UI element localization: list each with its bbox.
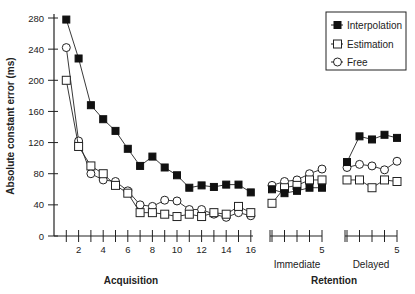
filled-square-marker <box>269 186 276 193</box>
filled-square-icon <box>334 22 341 29</box>
filled-square-marker <box>112 127 119 134</box>
y-tick-label: 160 <box>28 106 44 117</box>
x-tick-label: 10 <box>172 244 183 255</box>
filled-square-marker <box>75 55 82 62</box>
open-circle-marker <box>381 166 389 174</box>
filled-square-marker <box>319 184 326 191</box>
filled-square-marker <box>381 131 388 138</box>
open-circle-marker <box>393 157 401 165</box>
x-axis-label-immediate: Immediate <box>274 259 321 270</box>
filled-square-marker <box>186 184 193 191</box>
legend-interpolation: Interpolation <box>347 20 402 31</box>
open-square-marker <box>87 162 95 170</box>
x-axis-label-delayed: Delayed <box>353 259 390 270</box>
open-square-marker <box>318 176 326 184</box>
legend-free: Free <box>347 57 368 68</box>
open-square-marker <box>368 184 376 192</box>
filled-square-marker <box>369 136 376 143</box>
series-estimation <box>62 76 255 220</box>
legend: Interpolation Estimation Free <box>326 12 406 70</box>
filled-square-marker <box>137 162 144 169</box>
x-tick-label: 2 <box>76 244 81 255</box>
y-axis-label: Absolute constant error (ms) <box>5 57 16 194</box>
open-square-marker <box>62 76 70 84</box>
filled-square-marker <box>174 172 181 179</box>
filled-square-marker <box>294 187 301 194</box>
filled-square-marker <box>247 189 254 196</box>
series-estimation <box>343 176 401 192</box>
filled-square-marker <box>63 16 70 23</box>
open-square-marker <box>99 170 107 178</box>
open-square-marker <box>306 176 314 184</box>
y-tick-label: 240 <box>28 44 44 55</box>
series-interpolation <box>344 131 401 165</box>
open-circle-marker <box>62 44 70 52</box>
y-tick-label: 0 <box>39 231 44 242</box>
filled-square-marker <box>344 159 351 166</box>
open-square-marker <box>148 209 156 217</box>
series-free <box>62 44 255 222</box>
filled-square-marker <box>149 153 156 160</box>
open-square-marker <box>356 176 364 184</box>
open-square-marker <box>381 176 389 184</box>
series-free <box>343 157 401 174</box>
open-square-marker <box>198 213 206 221</box>
x-tick-label: 8 <box>150 244 155 255</box>
filled-square-marker <box>223 181 230 188</box>
open-square-marker <box>161 210 169 218</box>
open-square-marker <box>393 178 401 186</box>
x-axis-label-retention: Retention <box>311 275 357 286</box>
x-tick-label: 5 <box>394 244 399 255</box>
open-square-marker <box>173 213 181 221</box>
filled-square-marker <box>281 190 288 197</box>
x-tick-label: 14 <box>221 244 232 255</box>
open-square-marker <box>343 176 351 184</box>
filled-square-marker <box>210 183 217 190</box>
open-circle-marker <box>87 170 95 178</box>
open-square-marker <box>185 210 193 218</box>
filled-square-marker <box>161 164 168 171</box>
x-tick-label: 12 <box>196 244 207 255</box>
open-square-marker <box>210 209 218 217</box>
y-tick-label: 280 <box>28 13 44 24</box>
open-square-marker <box>247 209 255 217</box>
open-circle-marker <box>173 197 181 205</box>
line-chart: 0408012016020024028024681012141655 Absol… <box>0 0 415 294</box>
open-square-marker <box>124 189 132 197</box>
y-tick-label: 40 <box>33 199 44 210</box>
y-tick-label: 80 <box>33 168 44 179</box>
open-circle-icon <box>334 58 342 66</box>
open-square-marker <box>235 202 243 210</box>
filled-square-marker <box>100 116 107 123</box>
y-tick-label: 120 <box>28 137 44 148</box>
open-square-marker <box>268 199 276 207</box>
open-circle-marker <box>318 165 326 173</box>
legend-estimation: Estimation <box>347 39 394 50</box>
x-axis-label-acquisition: Acquisition <box>104 275 158 286</box>
x-tick-label: 16 <box>246 244 257 255</box>
open-square-marker <box>136 209 144 217</box>
x-tick-label: 5 <box>319 244 324 255</box>
filled-square-marker <box>235 181 242 188</box>
x-tick-label: 4 <box>101 244 106 255</box>
open-circle-marker <box>161 196 169 204</box>
open-circle-marker <box>356 160 364 168</box>
open-square-icon <box>334 40 342 48</box>
open-square-marker <box>112 181 120 189</box>
filled-square-marker <box>306 184 313 191</box>
x-tick-label: 6 <box>125 244 130 255</box>
y-tick-label: 200 <box>28 75 44 86</box>
filled-square-marker <box>356 133 363 140</box>
open-square-marker <box>222 210 230 218</box>
filled-square-marker <box>124 145 131 152</box>
filled-square-marker <box>394 134 401 141</box>
open-circle-marker <box>368 162 376 170</box>
filled-square-marker <box>198 182 205 189</box>
open-square-marker <box>75 142 83 150</box>
filled-square-marker <box>87 102 94 109</box>
